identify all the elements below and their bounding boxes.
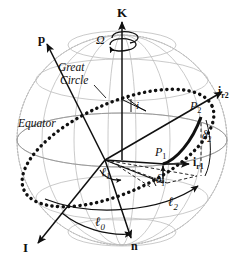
label-equator: Equator xyxy=(18,118,56,130)
label-delta-1: δ1 xyxy=(156,174,165,188)
label-delta-2-subscript: 2 xyxy=(207,135,211,144)
great-circle-dotted xyxy=(6,65,231,231)
figure-canvas: K Ω p I n Great Circle Equator i P1 P2 i… xyxy=(0,0,246,274)
label-ell-2-subscript: 2 xyxy=(173,202,177,212)
label-great-circle-line1: Great xyxy=(58,62,84,74)
label-point-1-subscript: 1 xyxy=(162,152,166,161)
label-ir1-subscript: r1 xyxy=(196,162,203,171)
label-p-vector: p xyxy=(38,32,45,45)
label-i-vector: I xyxy=(23,241,28,254)
label-omega: Ω xyxy=(96,34,105,46)
label-ell-1-subscript: 1 xyxy=(106,172,110,181)
label-ell-1: ℓ1 xyxy=(101,166,110,182)
label-point-2-subscript: 2 xyxy=(197,106,201,115)
label-k-axis: K xyxy=(117,6,127,19)
label-ir1: ir1 xyxy=(193,157,204,171)
label-ell-0: ℓ0 xyxy=(95,215,105,231)
label-great-circle-line2: Circle xyxy=(60,75,88,87)
label-delta-1-subscript: 1 xyxy=(161,179,165,188)
label-ir2-subscript: r2 xyxy=(221,91,228,100)
label-inclination: i xyxy=(136,100,139,111)
label-point-2: P2 xyxy=(190,100,201,116)
label-ell-0-subscript: 0 xyxy=(100,222,104,232)
label-n-vector: n xyxy=(131,240,138,252)
great-circle-leader xyxy=(94,85,106,98)
label-delta-2: δ2 xyxy=(202,130,211,144)
label-point-1: P1 xyxy=(155,146,166,162)
label-ir2: ir2 xyxy=(218,86,229,100)
label-ell-2: ℓ2 xyxy=(168,195,178,211)
